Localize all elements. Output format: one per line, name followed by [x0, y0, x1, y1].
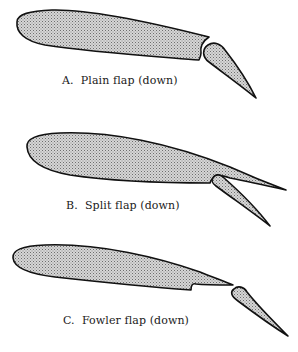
main-wing-b	[27, 133, 286, 190]
diagram-canvas	[0, 0, 298, 352]
caption-b: B. Split flap (down)	[66, 199, 180, 212]
plain-flap	[204, 43, 256, 98]
caption-c: C. Fowler flap (down)	[63, 314, 189, 327]
main-wing-a	[17, 10, 209, 60]
panel-b-split-flap	[27, 133, 286, 226]
flap-types-diagram: A. Plain flap (down) B. Split flap (down…	[0, 0, 298, 352]
main-wing-c	[13, 245, 233, 290]
fowler-flap	[232, 287, 288, 336]
caption-a: A. Plain flap (down)	[62, 74, 178, 87]
